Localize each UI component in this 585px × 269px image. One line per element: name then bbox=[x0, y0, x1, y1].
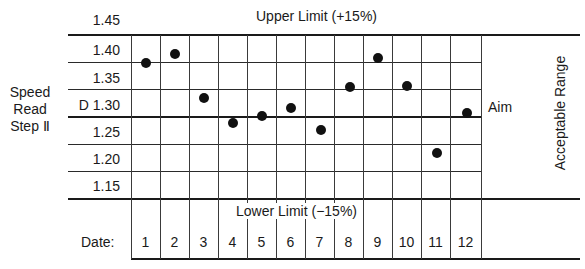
y-axis-title-line3: Step Ⅱ bbox=[6, 118, 54, 135]
grid-line bbox=[189, 35, 190, 259]
lower-limit-line bbox=[68, 198, 580, 200]
date-tick: 4 bbox=[218, 234, 247, 250]
date-tick: 12 bbox=[451, 234, 480, 250]
aim-line bbox=[68, 116, 481, 118]
grid-line bbox=[68, 144, 481, 145]
y-tick-label: 1.25 bbox=[60, 124, 120, 140]
grid-line bbox=[481, 35, 482, 259]
grid-line bbox=[160, 35, 161, 259]
y-tick-label: D 1.30 bbox=[60, 97, 120, 113]
grid-line bbox=[363, 35, 364, 259]
date-tick: 6 bbox=[276, 234, 305, 250]
y-tick-label: 1.15 bbox=[60, 178, 120, 194]
acceptable-range-label: Acceptable Range bbox=[552, 48, 568, 178]
data-point bbox=[402, 81, 412, 91]
grid-line bbox=[392, 35, 393, 259]
data-point bbox=[199, 93, 209, 103]
data-point bbox=[228, 118, 238, 128]
y-tick-label: 1.20 bbox=[60, 151, 120, 167]
date-tick: 7 bbox=[305, 234, 334, 250]
data-point bbox=[345, 82, 355, 92]
date-label: Date: bbox=[81, 234, 114, 250]
date-tick: 5 bbox=[247, 234, 276, 250]
y-tick-label: 1.40 bbox=[60, 42, 120, 58]
date-tick: 3 bbox=[189, 234, 218, 250]
data-point bbox=[373, 53, 383, 63]
grid-line bbox=[68, 62, 481, 63]
data-point bbox=[286, 103, 296, 113]
data-point bbox=[257, 111, 267, 121]
date-tick: 10 bbox=[392, 234, 421, 250]
data-point bbox=[170, 49, 180, 59]
grid-line bbox=[334, 35, 335, 259]
upper-limit-label: Upper Limit (+15%) bbox=[256, 8, 377, 24]
data-point bbox=[432, 148, 442, 158]
grid-line bbox=[68, 171, 481, 172]
date-tick: 1 bbox=[131, 234, 160, 250]
y-tick-label: 1.35 bbox=[60, 70, 120, 86]
grid-line bbox=[218, 35, 219, 259]
grid-line bbox=[450, 35, 451, 259]
grid-line bbox=[131, 35, 132, 259]
data-point bbox=[316, 125, 326, 135]
upper-limit-line bbox=[68, 34, 580, 36]
lower-limit-label: Lower Limit (−15%) bbox=[234, 203, 359, 219]
date-tick: 8 bbox=[334, 234, 363, 250]
grid-line bbox=[276, 35, 277, 259]
data-point bbox=[141, 58, 151, 68]
data-point bbox=[462, 108, 472, 118]
date-tick: 9 bbox=[363, 234, 392, 250]
grid-line bbox=[305, 35, 306, 259]
aim-label: Aim bbox=[488, 99, 512, 115]
y-axis-title: Speed Read Step Ⅱ bbox=[6, 84, 54, 135]
y-axis-title-line1: Speed bbox=[6, 84, 54, 101]
date-tick: 11 bbox=[421, 234, 450, 250]
bottom-line bbox=[131, 258, 580, 260]
grid-line bbox=[421, 35, 422, 259]
y-axis-title-line2: Read bbox=[6, 101, 54, 118]
date-tick: 2 bbox=[160, 234, 189, 250]
grid-line bbox=[247, 35, 248, 259]
grid-line bbox=[68, 89, 481, 90]
y-tick-label: 1.45 bbox=[60, 12, 120, 28]
